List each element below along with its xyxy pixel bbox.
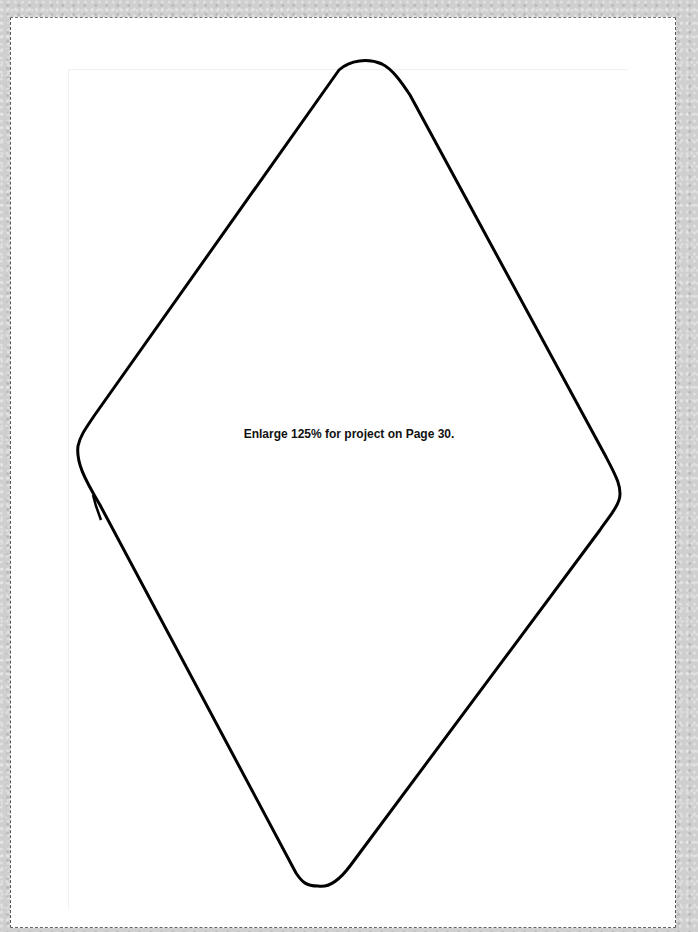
enlarge-instruction-caption: Enlarge 125% for project on Page 30. [0,427,698,441]
caption-text: Enlarge 125% for project on Page 30. [244,427,455,441]
diamond-outline-shape [0,0,698,932]
